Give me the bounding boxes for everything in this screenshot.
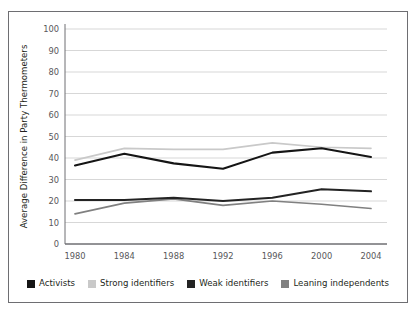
x-axis-tick-labels: 1980198419881992199620002004 [64,251,381,261]
x-tick-label: 1992 [212,251,233,261]
legend-item-label: Weak identifiers [199,279,268,288]
gridlines [65,29,387,244]
y-tick-label: 50 [48,132,59,142]
y-tick-label: 70 [48,89,59,99]
y-tick-label: 40 [48,153,59,163]
y-tick-label: 90 [48,46,59,56]
legend-item-label: Strong identifiers [100,279,174,288]
y-tick-label: 100 [43,24,59,34]
legend-item-weak-identifiers[interactable]: Weak identifiers [187,279,268,288]
y-tick-label: 0 [54,239,59,249]
series-line-activists [75,148,371,168]
legend-item-label: Activists [39,279,75,288]
line-chart: 0102030405060708090100 19801984198819921… [9,12,407,302]
x-tick-label: 1980 [64,251,85,261]
data-series-group [75,143,371,214]
y-tick-label: 60 [48,110,59,120]
legend-swatch-icon [187,280,195,288]
x-tick-label: 1988 [163,251,184,261]
y-tick-label: 10 [48,218,59,228]
legend-item-activists[interactable]: Activists [27,279,75,288]
y-tick-label: 20 [48,196,59,206]
chart-legend: ActivistsStrong identifiersWeak identifi… [9,279,407,288]
x-tick-label: 1984 [114,251,135,261]
plot-svg: 0102030405060708090100 19801984198819921… [9,12,406,301]
x-tick-label: 2004 [360,251,381,261]
legend-item-leaning-independents[interactable]: Leaning independents [281,279,388,288]
legend-item-strong-identifiers[interactable]: Strong identifiers [88,279,174,288]
x-tick-label: 1996 [262,251,283,261]
legend-swatch-icon [88,280,96,288]
chart-frame: 0102030405060708090100 19801984198819921… [8,11,408,303]
y-axis-tick-labels: 0102030405060708090100 [43,24,59,249]
y-axis-title: Average Difference in Party Thermometers [19,44,29,228]
x-tick-label: 2000 [311,251,332,261]
y-tick-label: 30 [48,175,59,185]
series-line-weak-identifiers [75,189,371,201]
y-tick-label: 80 [48,67,59,77]
legend-item-label: Leaning independents [293,279,388,288]
legend-swatch-icon [281,280,289,288]
legend-swatch-icon [27,280,35,288]
axis-lines [65,24,387,244]
